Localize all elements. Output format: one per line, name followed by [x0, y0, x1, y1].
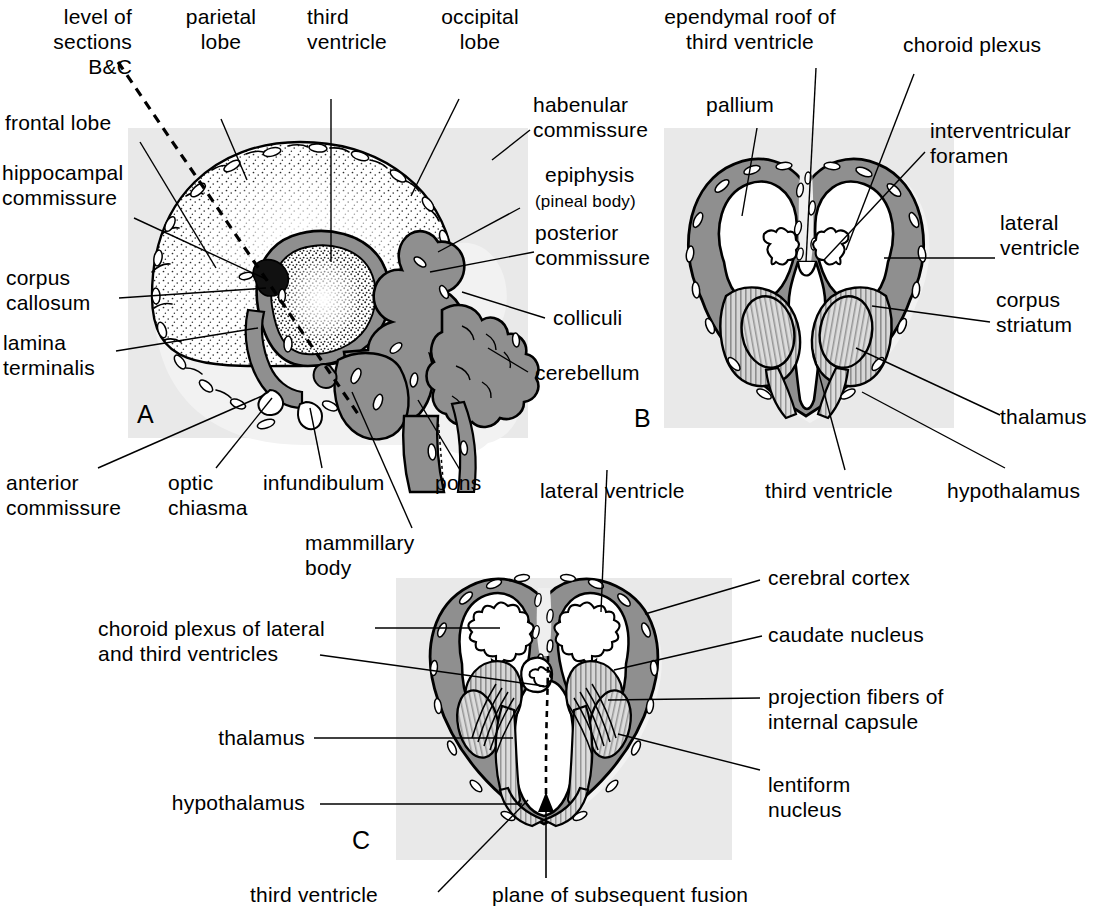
label-level-of-sections: level of sections B&C [0, 4, 132, 79]
label-posterior-commissure: posterior commissure [535, 220, 715, 270]
label-hippocampal-commissure: hippocampal commissure [2, 160, 162, 210]
label-choroid-plexus-c: choroid plexus of lateral and third vent… [98, 616, 398, 666]
panel-letter-c: C [352, 826, 370, 855]
label-third-ventricle-a: third ventricle [307, 4, 437, 54]
label-interventricular-foramen: interventricular foramen [930, 118, 1097, 168]
label-pons: pons [435, 470, 515, 495]
label-lateral-ventricle-b: lateral ventricle [1000, 210, 1097, 260]
label-choroid-plexus-b: choroid plexus [903, 32, 1093, 57]
label-infundibulum: infundibulum [263, 470, 413, 495]
label-thalamus-b: thalamus [1000, 404, 1097, 429]
label-frontal-lobe: frontal lobe [5, 110, 155, 135]
label-habenular-commissure: habenular commissure [533, 92, 713, 142]
label-plane-of-fusion: plane of subsequent fusion [492, 882, 822, 907]
label-colliculi: colliculi [553, 305, 703, 330]
label-third-ventricle-c: third ventricle [250, 882, 440, 907]
label-epiphysis: epiphysis [545, 162, 705, 187]
label-pineal-body: (pineal body) [535, 192, 715, 212]
label-hypothalamus-c: hypothalamus [120, 790, 305, 815]
label-corpus-striatum: corpus striatum [996, 287, 1096, 337]
label-ependymal-roof: ependymal roof of third ventricle [630, 4, 870, 54]
label-pallium: pallium [706, 92, 826, 117]
label-lamina-terminalis: lamina terminalis [3, 330, 143, 380]
label-caudate-nucleus: caudate nucleus [768, 622, 978, 647]
label-hypothalamus-b: hypothalamus [947, 478, 1097, 503]
label-cerebral-cortex: cerebral cortex [768, 565, 968, 590]
panel-letter-a: A [137, 400, 154, 429]
label-parietal-lobe: parietal lobe [146, 4, 296, 54]
figure-canvas: level of sections B&C parietal lobe thir… [0, 0, 1097, 920]
label-anterior-commissure: anterior commissure [6, 470, 176, 520]
label-mammillary-body: mammillary body [305, 530, 455, 580]
label-lentiform-nucleus: lentiform nucleus [768, 772, 908, 822]
label-cerebellum: cerebellum [535, 360, 705, 385]
label-corpus-callosum: corpus callosum [6, 265, 146, 315]
label-occipital-lobe: occipital lobe [420, 4, 540, 54]
label-projection-fibers: projection fibers of internal capsule [768, 684, 1018, 734]
panel-letter-b: B [634, 404, 651, 433]
label-third-ventricle-b: third ventricle [765, 478, 935, 503]
label-thalamus-c: thalamus [140, 725, 305, 750]
label-lateral-ventricle-c: lateral ventricle [540, 478, 740, 503]
